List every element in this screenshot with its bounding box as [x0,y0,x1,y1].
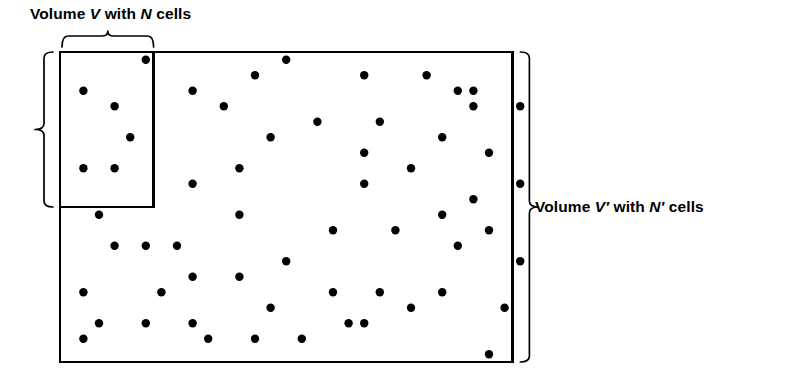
cell-grid-diagram [0,0,803,390]
molecule-dot [360,319,368,327]
molecule-dot [235,273,243,281]
label-segment: with [100,5,140,22]
molecule-dot [438,133,446,141]
molecule-dot [438,211,446,219]
molecule-dot [407,304,415,312]
molecule-dot [204,335,212,343]
molecule-dot [469,102,477,110]
molecule-dot [235,164,243,172]
molecule-dot [391,226,399,234]
molecule-dot [188,273,196,281]
molecule-dot [344,319,352,327]
left-brace [35,52,53,207]
molecule-dot [422,71,430,79]
top-brace [62,31,154,47]
molecule-dot [360,71,368,79]
molecule-dot [282,257,290,265]
molecule-dot [516,102,524,110]
molecule-dot [235,211,243,219]
molecule-dot [251,71,259,79]
molecule-dot [95,211,103,219]
molecule-dot [142,56,150,64]
molecule-dot [142,242,150,250]
molecule-dot [360,149,368,157]
molecule-dot [454,242,462,250]
molecule-dot [516,180,524,188]
molecule-dot [376,118,384,126]
molecule-dot [360,180,368,188]
label-segment: N′ [649,198,664,215]
molecule-dot [485,350,493,358]
molecule-dot [173,242,181,250]
molecule-dot [313,118,321,126]
molecule-dot [516,257,524,265]
label-segment: Volume [30,5,90,22]
molecule-dot [95,319,103,327]
molecule-dot [110,164,118,172]
right-volume-label: Volume V′ with N′ cells [535,198,704,216]
molecule-dot [454,87,462,95]
molecule-dot [298,335,306,343]
molecule-dot [79,87,87,95]
label-segment: V [90,5,100,22]
molecule-dot [126,133,134,141]
molecule-dot [485,149,493,157]
molecule-dot [79,288,87,296]
molecule-dot [188,87,196,95]
molecule-dot [500,304,508,312]
label-segment: with [609,198,649,215]
molecule-dot [376,288,384,296]
molecule-dot [110,102,118,110]
molecule-dot [407,164,415,172]
molecule-dot [79,164,87,172]
molecule-dot [142,319,150,327]
molecule-dot [220,102,228,110]
molecule-dot [438,288,446,296]
molecule-dot [485,226,493,234]
molecule-dot [266,304,274,312]
molecule-dot [329,226,337,234]
label-segment: N [141,5,152,22]
molecule-dot [266,133,274,141]
molecule-dot [188,319,196,327]
molecule-dot [157,288,165,296]
label-segment: Volume [535,198,595,215]
molecule-dot [79,335,87,343]
molecule-dot [110,242,118,250]
figure-container: Volume V with N cells Volume V′ with N′ … [0,0,803,390]
label-segment: V′ [595,198,609,215]
label-segment: cells [152,5,191,22]
molecule-dot [469,195,477,203]
label-segment: cells [664,198,703,215]
molecule-dot [329,288,337,296]
molecule-dot [469,87,477,95]
molecule-dot [282,56,290,64]
top-volume-label: Volume V with N cells [30,5,191,23]
molecule-dot [251,335,259,343]
molecule-dot [188,180,196,188]
